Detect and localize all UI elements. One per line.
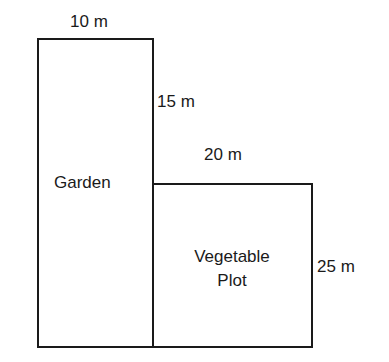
garden-name-label: Garden [54, 173, 111, 193]
vegetable-plot-width-label: 20 m [204, 145, 242, 165]
garden-height-label: 15 m [157, 92, 195, 112]
vegetable-plot-name-label: Vegetable Plot [172, 247, 292, 291]
vegetable-plot-height-label: 25 m [317, 257, 355, 277]
garden-width-label: 10 m [70, 12, 108, 32]
garden-rect [37, 38, 154, 348]
vegetable-plot-name-line1: Vegetable [172, 247, 292, 267]
vegetable-plot-name-line2: Plot [172, 271, 292, 291]
